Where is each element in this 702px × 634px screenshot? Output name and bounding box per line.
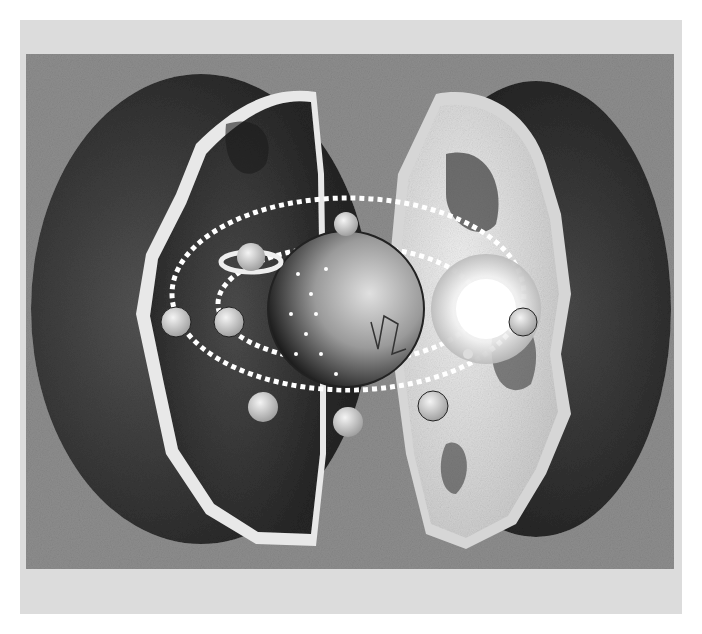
- cosmology-illustration: [26, 54, 674, 569]
- central-star-globe: [268, 231, 424, 387]
